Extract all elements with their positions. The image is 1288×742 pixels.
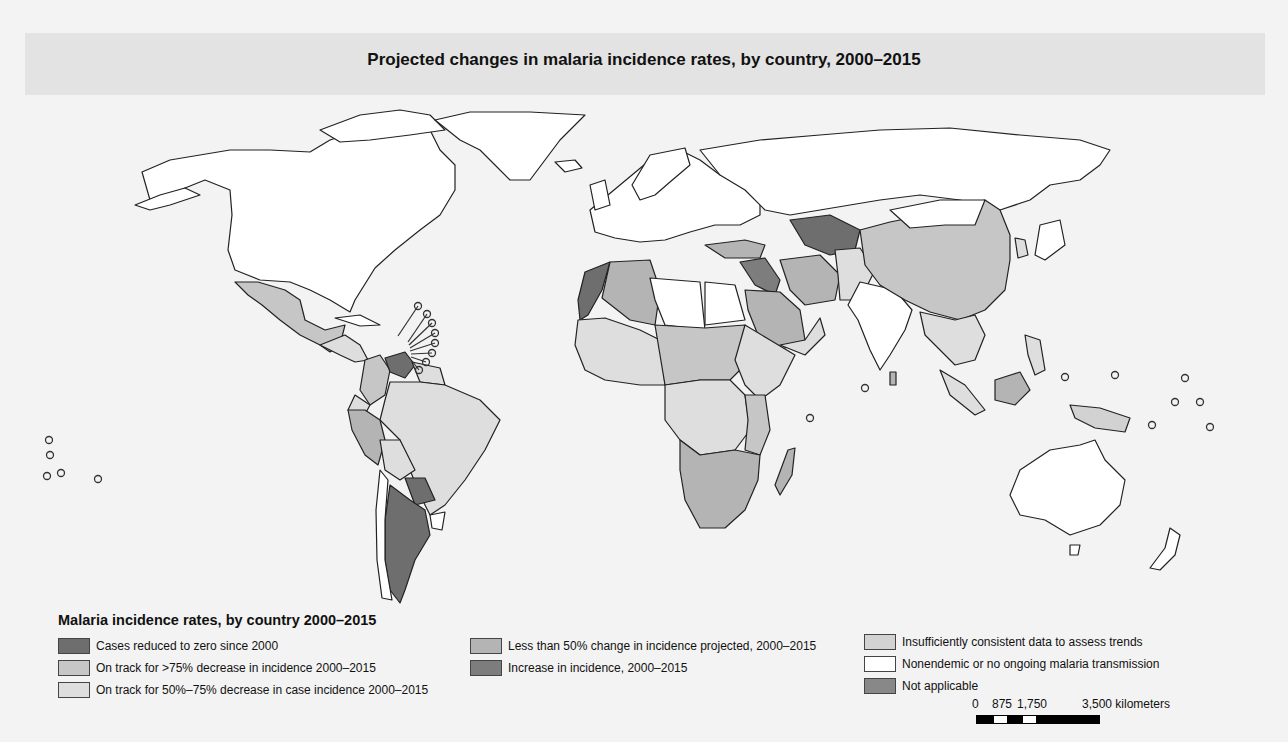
scale-bar-graphic: [976, 715, 1190, 724]
scale-tick-1750: 1,750: [1017, 697, 1047, 711]
iceland: [555, 160, 582, 172]
east-africa: [745, 395, 770, 455]
legend-title: Malaria incidence rates, by country 2000…: [58, 612, 376, 628]
central-africa: [665, 380, 750, 455]
scale-tick-0: 0: [972, 697, 979, 711]
legend-column-1: Cases reduced to zero since 2000 On trac…: [58, 636, 428, 702]
southern-africa: [680, 440, 760, 528]
legend-item-insufficient-data: Insufficiently consistent data to assess…: [864, 632, 1159, 651]
world-map: [0, 95, 1288, 615]
swatch-nonendemic: [864, 656, 896, 672]
egypt: [705, 282, 745, 325]
philippines: [1025, 335, 1045, 375]
new-zealand: [1150, 528, 1180, 570]
japan: [1035, 220, 1065, 260]
legend-item-increase: Increase in incidence, 2000–2015: [470, 658, 816, 677]
legend-item-zero-cases: Cases reduced to zero since 2000: [58, 636, 428, 655]
swatch-not-applicable: [864, 678, 896, 694]
peru: [348, 410, 385, 465]
swatch-increase: [470, 660, 502, 676]
cuba: [335, 315, 380, 326]
sri-lanka: [890, 372, 896, 385]
legend-column-2: Less than 50% change in incidence projec…: [470, 636, 816, 680]
scale-tick-875: 875: [992, 697, 1012, 711]
legend-item-not-applicable: Not applicable: [864, 676, 1159, 695]
legend-column-3: Insufficiently consistent data to assess…: [864, 632, 1159, 698]
swatch-50-75-decrease: [58, 682, 90, 698]
swatch-over-75-decrease: [58, 660, 90, 676]
australia: [1010, 440, 1125, 535]
swatch-zero-cases: [58, 638, 90, 654]
map-title: Projected changes in malaria incidence r…: [0, 50, 1288, 70]
tasmania: [1070, 545, 1080, 555]
libya: [650, 278, 705, 330]
southeast-asia: [920, 312, 985, 365]
iraq-syria: [740, 258, 780, 295]
madagascar: [775, 448, 795, 495]
legend-item-over-75-decrease: On track for >75% decrease in incidence …: [58, 658, 428, 677]
west-africa: [575, 318, 665, 385]
russia: [700, 128, 1110, 215]
korea: [1015, 238, 1028, 258]
papua-new-guinea: [1070, 405, 1130, 432]
indonesia-west: [940, 370, 985, 415]
uruguay: [430, 512, 445, 530]
swatch-insufficient-data: [864, 634, 896, 650]
algeria: [602, 260, 660, 325]
legend-item-nonendemic: Nonendemic or no ongoing malaria transmi…: [864, 654, 1159, 673]
borneo: [995, 372, 1030, 405]
north-america-region: [142, 125, 455, 312]
legend-item-50-75-decrease: On track for 50%–75% decrease in case in…: [58, 680, 428, 699]
uk: [590, 180, 610, 210]
iran: [780, 255, 840, 305]
scale-tick-3500: 3,500 kilometers: [1082, 697, 1170, 711]
swatch-less-than-50: [470, 638, 502, 654]
legend-item-less-than-50: Less than 50% change in incidence projec…: [470, 636, 816, 655]
scale-bar: 0 875 1,750 3,500 kilometers: [970, 697, 1190, 724]
turkey: [705, 240, 765, 258]
